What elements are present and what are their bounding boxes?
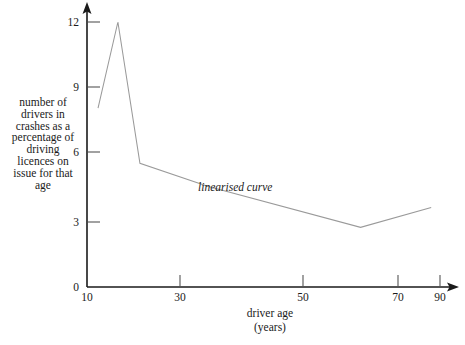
y-axis-label: number of drivers in crashes as a percen… <box>2 97 84 191</box>
x-tick-marks <box>180 275 440 286</box>
x-tick-label-50: 50 <box>297 291 309 303</box>
y-tick-label-3: 3 <box>73 216 79 228</box>
chart-figure: 12 9 6 3 0 10 30 50 70 90 number of driv… <box>0 0 465 345</box>
y-tick-marks <box>88 22 100 222</box>
x-tick-label-90: 90 <box>434 291 446 303</box>
y-tick-label-12: 12 <box>68 16 80 28</box>
x-tick-label-30: 30 <box>174 291 186 303</box>
y-tick-label-9: 9 <box>73 81 79 93</box>
x-axis-label: driver age (years) <box>210 307 330 334</box>
x-tick-label-10: 10 <box>81 291 93 303</box>
curve-annotation-label: linearised curve <box>198 181 272 193</box>
linearised-curve-line <box>98 22 431 227</box>
x-tick-label-70: 70 <box>392 291 404 303</box>
x-tick-labels: 10 30 50 70 90 <box>81 291 446 303</box>
y-tick-label-0: 0 <box>73 281 79 293</box>
